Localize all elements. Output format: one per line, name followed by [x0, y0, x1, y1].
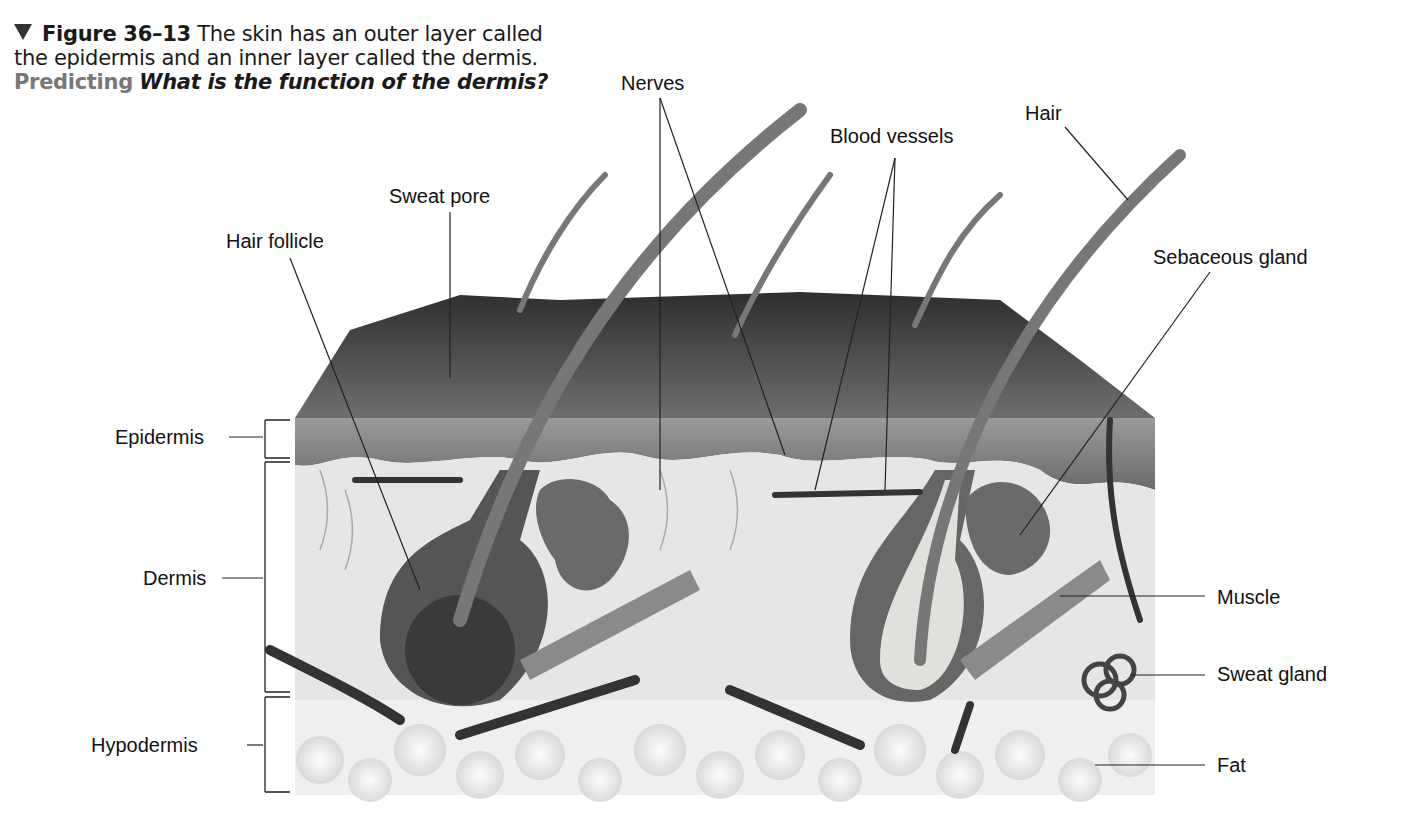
label-sweat-gland: Sweat gland	[1217, 663, 1327, 686]
label-blood-vessels: Blood vessels	[830, 125, 953, 148]
layer-brackets	[265, 420, 290, 792]
label-fat: Fat	[1217, 754, 1246, 777]
skin-cross-section-illustration	[0, 0, 1414, 835]
label-dermis: Dermis	[143, 567, 206, 590]
skin-surface	[295, 292, 1155, 418]
label-hair-follicle: Hair follicle	[226, 230, 324, 253]
label-hair: Hair	[1025, 102, 1062, 125]
label-sweat-pore: Sweat pore	[389, 185, 490, 208]
label-nerves: Nerves	[621, 72, 684, 95]
label-muscle: Muscle	[1217, 586, 1280, 609]
label-hypodermis: Hypodermis	[91, 734, 198, 757]
label-sebaceous-gland: Sebaceous gland	[1153, 246, 1308, 269]
label-epidermis: Epidermis	[115, 426, 204, 449]
